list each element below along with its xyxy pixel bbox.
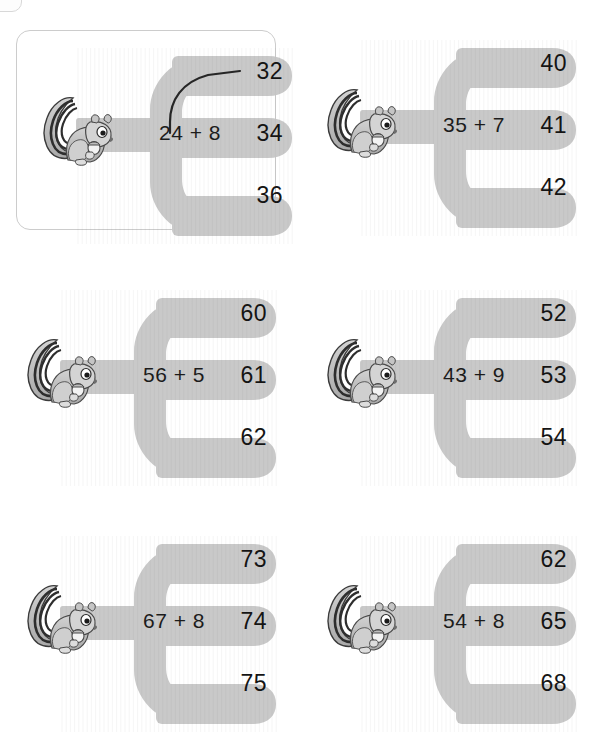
squirrel-icon bbox=[24, 334, 98, 412]
squirrel-icon bbox=[40, 92, 114, 170]
answer-option-2[interactable]: 61 bbox=[221, 360, 267, 390]
squirrel-icon bbox=[24, 580, 98, 658]
equation-label: 24 + 8 bbox=[138, 118, 242, 148]
answer-option-1[interactable]: 52 bbox=[521, 298, 567, 328]
answer-option-1[interactable]: 32 bbox=[237, 56, 283, 86]
answer-option-3[interactable]: 75 bbox=[221, 668, 267, 698]
answer-option-1[interactable]: 60 bbox=[221, 298, 267, 328]
squirrel-icon bbox=[324, 580, 398, 658]
answer-option-2[interactable]: 34 bbox=[237, 118, 283, 148]
problem-6[interactable]: 54 + 8626568 bbox=[316, 536, 596, 732]
corner-badge bbox=[0, 0, 22, 12]
answer-option-3[interactable]: 36 bbox=[237, 180, 283, 210]
problem-3[interactable]: 56 + 5606162 bbox=[16, 290, 296, 486]
equation-label: 43 + 9 bbox=[422, 360, 526, 390]
problem-1[interactable]: 24 + 8323436 bbox=[32, 48, 312, 244]
equation-label: 56 + 5 bbox=[122, 360, 226, 390]
answer-option-2[interactable]: 65 bbox=[521, 606, 567, 636]
problem-4[interactable]: 43 + 9525354 bbox=[316, 290, 596, 486]
squirrel-icon bbox=[324, 580, 398, 658]
answer-option-2[interactable]: 53 bbox=[521, 360, 567, 390]
squirrel-icon bbox=[324, 334, 398, 412]
worksheet-sheet: 24 + 8323436 bbox=[0, 0, 596, 732]
squirrel-icon bbox=[24, 334, 98, 412]
answer-option-3[interactable]: 42 bbox=[521, 172, 567, 202]
answer-option-1[interactable]: 73 bbox=[221, 544, 267, 574]
problem-5[interactable]: 67 + 8737475 bbox=[16, 536, 296, 732]
squirrel-icon bbox=[24, 580, 98, 658]
squirrel-icon bbox=[40, 92, 114, 170]
squirrel-icon bbox=[324, 334, 398, 412]
answer-option-2[interactable]: 74 bbox=[221, 606, 267, 636]
answer-option-2[interactable]: 41 bbox=[521, 110, 567, 140]
equation-label: 35 + 7 bbox=[422, 110, 526, 140]
problem-2[interactable]: 35 + 7404142 bbox=[316, 40, 596, 236]
equation-label: 67 + 8 bbox=[122, 606, 226, 636]
answer-option-3[interactable]: 68 bbox=[521, 668, 567, 698]
answer-option-3[interactable]: 54 bbox=[521, 422, 567, 452]
squirrel-icon bbox=[324, 84, 398, 162]
answer-option-1[interactable]: 40 bbox=[521, 48, 567, 78]
equation-label: 54 + 8 bbox=[422, 606, 526, 636]
squirrel-icon bbox=[324, 84, 398, 162]
answer-option-1[interactable]: 62 bbox=[521, 544, 567, 574]
answer-option-3[interactable]: 62 bbox=[221, 422, 267, 452]
